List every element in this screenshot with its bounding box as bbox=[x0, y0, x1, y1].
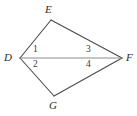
vertex-label-D: D bbox=[4, 52, 12, 63]
geometry-figure: E D F G 1 2 3 4 bbox=[0, 0, 137, 116]
angle-label-2: 2 bbox=[33, 60, 38, 70]
figure-canvas bbox=[0, 0, 137, 116]
vertex-label-G: G bbox=[49, 100, 57, 111]
vertex-label-E: E bbox=[45, 4, 52, 15]
vertex-label-F: F bbox=[126, 52, 133, 63]
angle-label-1: 1 bbox=[33, 45, 38, 55]
angle-label-4: 4 bbox=[86, 60, 91, 70]
angle-label-3: 3 bbox=[86, 45, 91, 55]
